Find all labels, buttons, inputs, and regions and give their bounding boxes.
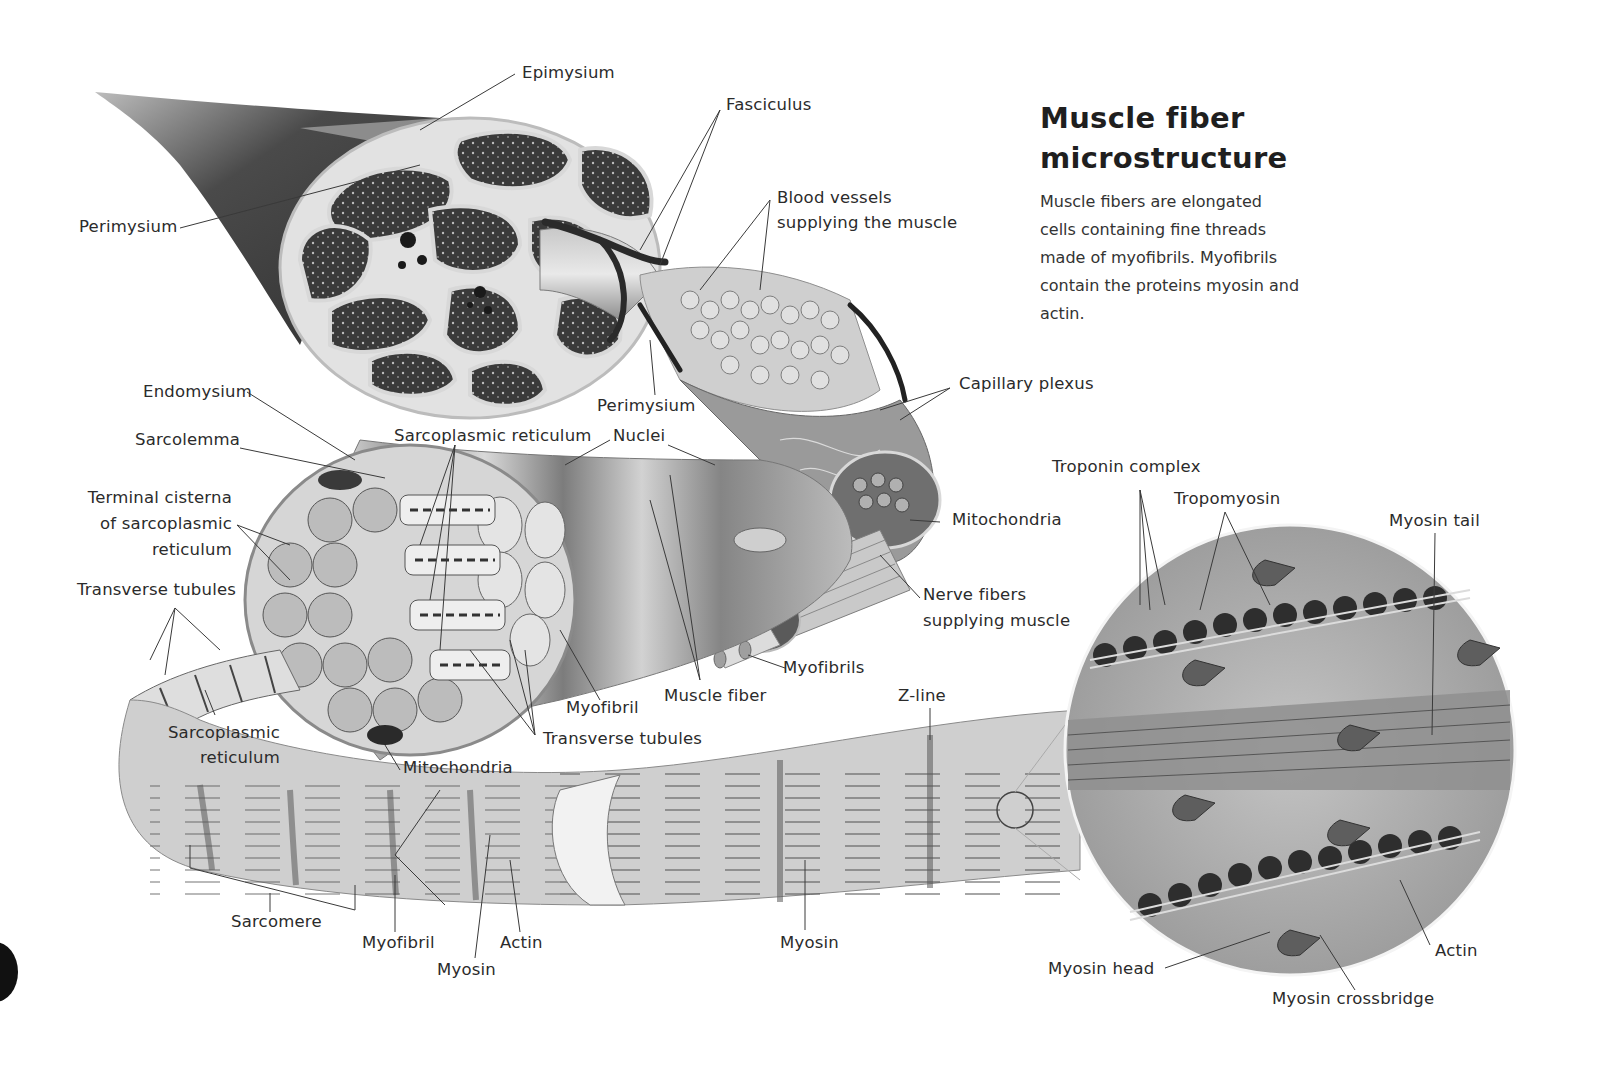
label-sarcoplasmic-reticulum-top: Sarcoplasmic reticulum [394, 426, 592, 446]
label-transverse-tubules-left: Transverse tubules [77, 580, 236, 600]
illustration [0, 0, 1602, 1068]
label-epimysium: Epimysium [522, 63, 615, 83]
label-capillary-plexus: Capillary plexus [959, 374, 1094, 394]
label-z-line: Z-line [898, 686, 946, 706]
label-myosin-tail: Myosin tail [1389, 511, 1480, 531]
label-terminal-cisterna: Terminal cisterna of sarcoplasmic reticu… [70, 485, 232, 563]
label-myosin-bottom-left: Myosin [437, 960, 496, 980]
label-sarcolemma: Sarcolemma [135, 430, 240, 450]
muscle-fiber-diagram: Muscle fiber microstructure Muscle fiber… [0, 0, 1602, 1068]
label-myofibrils: Myofibrils [783, 658, 865, 678]
label-blood-vessels: Blood vessels supplying the muscle [777, 185, 957, 235]
label-mitochondria-right: Mitochondria [952, 510, 1062, 530]
label-myosin-crossbridge: Myosin crossbridge [1272, 989, 1434, 1009]
label-myosin-bottom-mid: Myosin [780, 933, 839, 953]
label-myofibril-mid: Myofibril [566, 698, 639, 718]
label-tropomyosin: Tropomyosin [1174, 489, 1281, 509]
label-nuclei: Nuclei [613, 426, 665, 446]
page-description: Muscle fibers are elongated cells contai… [1040, 188, 1300, 328]
label-actin-bottom: Actin [500, 933, 543, 953]
label-nerve-fibers: Nerve fibers supplying muscle [923, 582, 1070, 634]
label-muscle-fiber: Muscle fiber [664, 686, 767, 706]
label-actin-right: Actin [1435, 941, 1478, 961]
label-myofibril-bottom: Myofibril [362, 933, 435, 953]
label-endomysium: Endomysium [143, 382, 252, 402]
label-sarcomere: Sarcomere [231, 912, 322, 932]
label-myosin-head: Myosin head [1048, 959, 1154, 979]
label-sarcoplasmic-reticulum-bottom: Sarcoplasmic reticulum [150, 720, 280, 770]
label-troponin-complex: Troponin complex [1052, 457, 1201, 477]
label-fasciculus: Fasciculus [726, 95, 812, 115]
label-transverse-tubules-bottom: Transverse tubules [543, 729, 702, 749]
label-perimysium-inner: Perimysium [597, 396, 695, 416]
label-mitochondria-bottom: Mitochondria [403, 758, 513, 778]
label-perimysium-outer: Perimysium [79, 217, 177, 237]
page-title: Muscle fiber microstructure [1040, 98, 1288, 178]
